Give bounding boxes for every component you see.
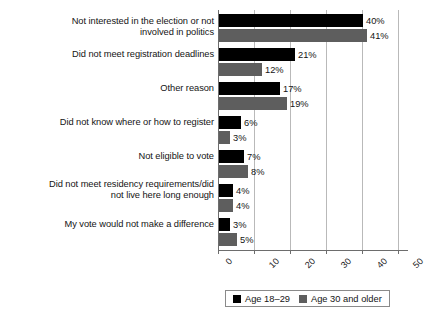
x-tick-label: 10 [267, 256, 281, 270]
category-label: Did not meet registration deadlines [2, 49, 214, 60]
bar-older [219, 97, 287, 110]
bar-older [219, 233, 237, 246]
bar-value-label: 12% [265, 65, 284, 75]
bar-young [219, 82, 280, 95]
x-tick-label: 40 [375, 256, 389, 270]
bar-young [219, 14, 363, 27]
bar-young [219, 150, 244, 163]
x-tick-40 [362, 250, 363, 254]
bar-value-label: 3% [233, 133, 246, 143]
gridline-30 [326, 10, 327, 250]
bar-value-label: 7% [247, 152, 260, 162]
bar-value-label: 6% [244, 118, 257, 128]
x-tick-50 [398, 250, 399, 254]
bar-older [219, 199, 233, 212]
bar-young [219, 48, 295, 61]
legend-entry-young: Age 18–29 [233, 294, 290, 304]
gridline-10 [254, 10, 255, 250]
bar-older [219, 63, 262, 76]
bar-young [219, 184, 233, 197]
bar-older [219, 131, 230, 144]
bar-older [219, 29, 367, 42]
bar-young [219, 218, 230, 231]
category-axis-labels: Not interested in the election or not in… [0, 10, 214, 250]
bar-value-label: 8% [251, 167, 264, 177]
plot-area: 40% 41% 21% 12% 17% 19% 6% 3% 7% 8% 4% 4… [218, 10, 400, 250]
legend-entry-older: Age 30 and older [299, 294, 382, 304]
bar-value-label: 17% [283, 84, 302, 94]
x-tick-label: 20 [303, 256, 317, 270]
legend-label: Age 18–29 [245, 294, 290, 304]
bar-older [219, 165, 248, 178]
category-label: Did not meet residency requirements/did … [2, 179, 214, 201]
bar-value-label: 3% [233, 220, 246, 230]
legend-swatch-icon [299, 295, 307, 303]
gridline-20 [290, 10, 291, 250]
x-tick-30 [326, 250, 327, 254]
gridline-40 [362, 10, 363, 250]
legend-label: Age 30 and older [311, 294, 382, 304]
category-label: My vote would not make a difference [2, 219, 214, 230]
x-axis-line [218, 250, 408, 251]
bar-value-label: 41% [370, 31, 389, 41]
category-label: Did not know where or how to register [2, 117, 214, 128]
x-tick-label: 30 [339, 256, 353, 270]
x-tick-label: 0 [223, 256, 234, 267]
x-tick-10 [254, 250, 255, 254]
bar-value-label: 4% [236, 201, 249, 211]
bar-value-label: 4% [236, 186, 249, 196]
x-tick-0 [218, 250, 219, 254]
category-label: Not eligible to vote [2, 151, 214, 162]
legend-swatch-icon [233, 295, 241, 303]
chart-legend: Age 18–29 Age 30 and older [225, 290, 390, 307]
category-label: Not interested in the election or not in… [2, 16, 214, 38]
category-label: Other reason [2, 83, 214, 94]
x-tick-20 [290, 250, 291, 254]
bar-value-label: 5% [240, 235, 253, 245]
x-tick-label: 50 [411, 256, 425, 270]
bar-value-label: 40% [366, 16, 385, 26]
bar-value-label: 19% [290, 99, 309, 109]
bar-value-label: 21% [298, 50, 317, 60]
gridline-50 [398, 10, 399, 250]
bar-young [219, 116, 241, 129]
bar-chart-figure: Not interested in the election or not in… [0, 0, 427, 321]
